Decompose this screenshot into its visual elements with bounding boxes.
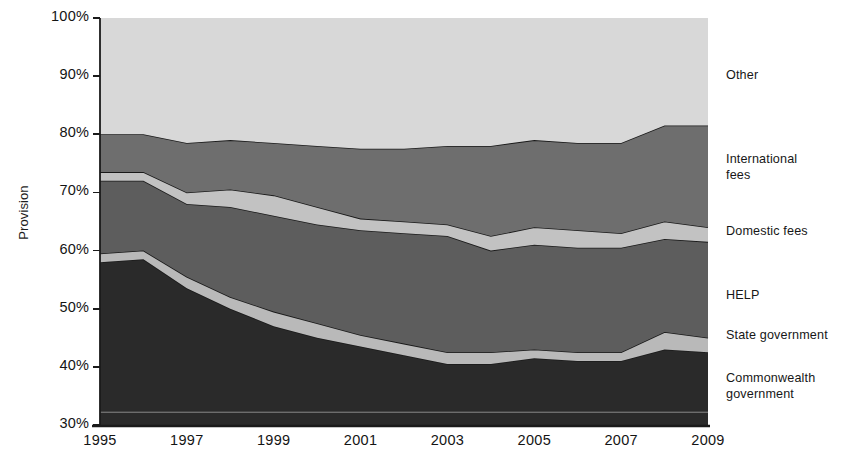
- x-tick-label-2003: 2003: [412, 432, 482, 448]
- plot-area: [0, 0, 851, 475]
- x-tick-label-1999: 1999: [239, 432, 309, 448]
- y-tick-mark-50: [93, 308, 100, 310]
- y-tick-mark-80: [93, 133, 100, 135]
- legend-label-commonwealth-government: Commonwealth government: [726, 371, 815, 402]
- y-tick-mark-90: [93, 75, 100, 77]
- legend-label-international-fees: International fees: [726, 152, 797, 183]
- legend-label-help: HELP: [726, 288, 760, 304]
- x-tick-label-2007: 2007: [586, 432, 656, 448]
- legend-label-other: Other: [726, 68, 758, 84]
- x-tick-label-1995: 1995: [65, 432, 135, 448]
- x-tick-label-2001: 2001: [326, 432, 396, 448]
- legend-label-domestic-fees: Domestic fees: [726, 224, 808, 240]
- y-tick-mark-100: [93, 17, 100, 19]
- x-tick-label-1997: 1997: [152, 432, 222, 448]
- y-tick-mark-40: [93, 366, 100, 368]
- area-band-other: [100, 18, 708, 149]
- x-tick-label-2005: 2005: [499, 432, 569, 448]
- legend-label-state-government: State government: [726, 328, 828, 344]
- y-tick-mark-60: [93, 250, 100, 252]
- y-tick-mark-70: [93, 192, 100, 194]
- area-series-group: [100, 18, 708, 425]
- y-tick-mark-30: [93, 424, 100, 426]
- x-tick-label-2009: 2009: [673, 432, 743, 448]
- stacked-area-chart: Provision 100%90%80%70%60%50%40%30% 1995…: [0, 0, 851, 475]
